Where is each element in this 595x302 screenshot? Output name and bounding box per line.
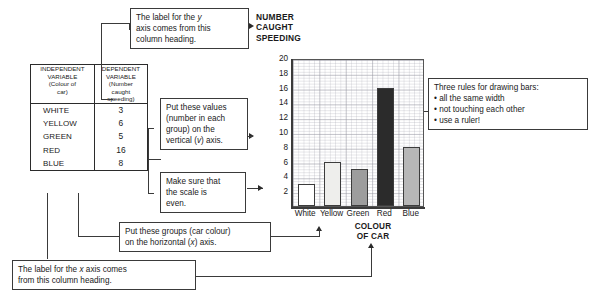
connector-line (78, 236, 120, 237)
header-line: (Number (95, 80, 147, 88)
table-column-labels: WHITE YELLOW GREEN RED BLUE (31, 103, 94, 170)
x-axis-tick-label: Blue (392, 209, 430, 219)
callout-line: vertical (v) axis. (166, 135, 242, 146)
callout-values: Put these values (number in each group) … (160, 98, 248, 150)
y-axis-tick-label: 4 (266, 173, 288, 181)
callout-line: group) on the (166, 124, 242, 135)
connector-line (270, 236, 319, 237)
chart-title-line: NUMBER (256, 12, 332, 22)
table-row: YELLOW (31, 117, 94, 130)
y-axis-tick-label: 6 (266, 159, 288, 167)
connector-line (101, 23, 102, 100)
callout-y-axis-label: The label for the y axis comes from this… (130, 8, 249, 49)
y-axis-tick-label: 20 (266, 55, 288, 63)
connector-brace (148, 128, 154, 194)
x-axis-title-line: COLOUR (338, 222, 408, 232)
data-table: INDEPENDENT VARIABLE (Colour of car) DEP… (30, 64, 148, 171)
table-row: 5 (95, 130, 147, 143)
arrow-icon (249, 23, 254, 29)
callout-line: • not touching each other (434, 104, 582, 115)
table-row: BLUE (31, 157, 94, 170)
header-line: caught (95, 88, 147, 96)
header-line: VARIABLE (95, 73, 147, 81)
callout-line: axis comes from this (136, 23, 243, 34)
table-row: 8 (95, 157, 147, 170)
callout-line: The label for the x axis comes (18, 264, 190, 275)
callout-line: The label for the y (136, 12, 243, 23)
y-axis-tick-label: 16 (266, 85, 288, 93)
chart-bar (403, 147, 420, 206)
callout-line: (number in each (166, 113, 242, 124)
table-header-independent: INDEPENDENT VARIABLE (Colour of car) (31, 65, 94, 103)
header-line: VARIABLE (31, 73, 94, 81)
table-row: RED (31, 144, 94, 157)
y-axis-line (291, 59, 293, 208)
chart-plot-area (292, 59, 424, 207)
y-axis-tick-label: 14 (266, 99, 288, 107)
connector-line (101, 23, 130, 24)
chart-bar (324, 162, 341, 206)
connector-line (78, 193, 79, 237)
x-axis-title: COLOUR OF CAR (338, 222, 408, 241)
connector-line (248, 136, 253, 137)
callout-line: • use a ruler! (434, 115, 582, 126)
header-line: (Colour of (31, 80, 94, 88)
table-row: WHITE (31, 104, 94, 117)
connector-line (196, 276, 372, 277)
x-axis-labels: WhiteYellowGreenRedBlue (286, 209, 432, 221)
callout-line: Three rules for drawing bars: (434, 82, 582, 93)
chart-title-line: SPEEDING (256, 33, 332, 43)
chart-title-line: CAUGHT (256, 22, 332, 32)
chart-bars (293, 60, 423, 206)
x-axis-title-line: OF CAR (338, 232, 408, 242)
header-line: INDEPENDENT (31, 65, 94, 73)
callout-line: even. (166, 198, 240, 209)
table-row: 3 (95, 104, 147, 117)
callout-line: Make sure that (166, 176, 240, 187)
header-line: car) (31, 88, 94, 96)
arrow-icon (368, 243, 374, 248)
table-row: GREEN (31, 130, 94, 143)
callout-line: from this column heading. (18, 275, 190, 286)
header-line: DEPENDENT (95, 65, 147, 73)
table-row: 6 (95, 117, 147, 130)
callout-line: • all the same width (434, 93, 582, 104)
y-axis-tick-label: 18 (266, 70, 288, 78)
y-axis-tick-label: 10 (266, 129, 288, 137)
callout-scale: Make sure that the scale is even. (160, 172, 246, 213)
table-column-values: 3 6 5 16 8 (94, 103, 147, 170)
y-axis-tick-label: 12 (266, 114, 288, 122)
y-axis-tick-label: 8 (266, 144, 288, 152)
y-axis-ticks: 2018161412108642 (262, 55, 288, 215)
callout-line: Put these values (166, 102, 242, 113)
callout-line: column heading. (136, 34, 243, 45)
callout-line: the scale is (166, 187, 240, 198)
chart-bar (377, 88, 394, 206)
connector-line (148, 159, 161, 160)
callout-groups: Put these groups (car colour) on the hor… (119, 222, 271, 252)
callout-line: on the horizontal (x) axis. (125, 237, 265, 248)
callout-x-axis-label: The label for the x axis comes from this… (12, 260, 196, 290)
table-row: 16 (95, 144, 147, 157)
table-header-dependent: DEPENDENT VARIABLE (Number caught speedi… (94, 65, 147, 103)
callout-rules: Three rules for drawing bars: • all the … (428, 78, 588, 130)
connector-line (101, 99, 113, 100)
connector-line (319, 229, 320, 237)
chart-title: NUMBER CAUGHT SPEEDING (256, 12, 332, 43)
callout-line: Put these groups (car colour) (125, 226, 265, 237)
y-axis-tick-label: 2 (266, 188, 288, 196)
connector-line (47, 193, 48, 259)
chart-bar (298, 184, 315, 206)
chart-bar (351, 169, 368, 206)
connector-line (371, 248, 372, 277)
